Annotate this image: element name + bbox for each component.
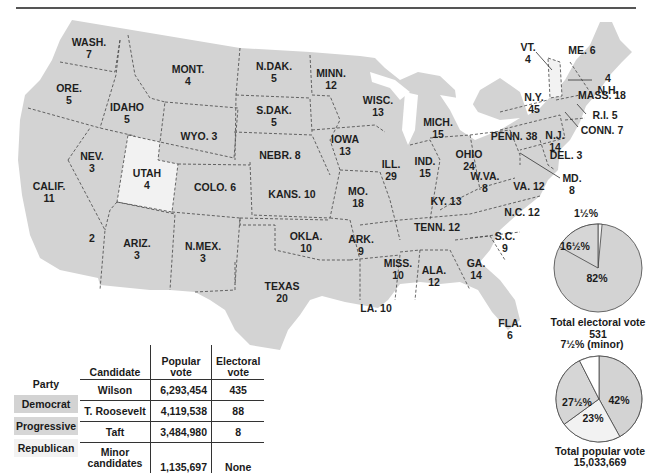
cell-electoral: 435	[212, 380, 265, 401]
popular-pie-total: 15,033,669	[574, 456, 627, 468]
legend-democrat: Democrat	[14, 395, 78, 413]
state-label-fla: FLA.6	[498, 317, 521, 341]
state-label-wisc: WISC.13	[363, 94, 393, 118]
cell-popular: 4,119,538	[151, 401, 212, 422]
state-label-minn: MINN.12	[316, 67, 346, 91]
cell-popular: 6,293,454	[151, 380, 212, 401]
state-label-ill: ILL.29	[382, 158, 401, 182]
electoral-vote-pie	[552, 222, 644, 314]
table-row: Wilson 6,293,454 435	[80, 380, 264, 401]
state-label-nc: N.C. 12	[504, 206, 540, 218]
state-label-ind: IND.15	[415, 155, 436, 179]
state-label-okla: OKLA.10	[290, 230, 323, 254]
cell-electoral: 88	[212, 401, 265, 422]
cell-popular: 3,484,980	[151, 422, 212, 443]
col-header-candidate: Candidate	[80, 345, 151, 380]
state-label-kans: KANS. 10	[268, 188, 315, 200]
popular-pie-label-democrat: 42%	[608, 394, 629, 406]
cell-electoral: None	[212, 443, 265, 473]
party-legend: Party Democrat Progressive Republican	[14, 378, 78, 461]
state-label-tenn: TENN. 12	[414, 221, 460, 233]
state-label-nev: NEV.3	[80, 150, 104, 174]
state-label-miss: MISS.10	[384, 257, 413, 281]
state-label-sc: S.C.9	[495, 230, 515, 254]
state-label-nebr: NEBR. 8	[259, 149, 300, 161]
state-label-ark: ARK.9	[348, 233, 374, 257]
legend-republican: Republican	[14, 439, 78, 457]
popular-pie-label-republican: 23%	[582, 412, 603, 424]
state-label-ny: N.Y.45	[524, 91, 543, 115]
cell-popular: 1,135,697	[151, 443, 212, 473]
state-label-ky: KY. 13	[431, 195, 462, 207]
state-label-ndak: N.DAK.5	[256, 60, 292, 84]
col-header-electoral: Electoral vote	[212, 345, 265, 380]
cell-candidate: Taft	[80, 422, 151, 443]
state-label-mont: MONT.4	[172, 63, 205, 87]
state-label-me: ME. 6	[568, 44, 595, 56]
state-label-vt: VT.4	[520, 41, 535, 65]
state-label-mo: MO.18	[348, 185, 368, 209]
state-label-del: DEL. 3	[550, 149, 583, 161]
state-label-utah: UTAH4	[133, 167, 161, 191]
state-label-ore: ORE.5	[56, 82, 82, 106]
state-label-nmex: N.MEX.3	[185, 240, 221, 264]
cell-candidate: Minor candidates	[80, 443, 151, 473]
state-label-colo: COLO. 6	[194, 181, 236, 193]
table-row: Taft 3,484,980 8	[80, 422, 264, 443]
state-label-idaho: IDAHO5	[110, 101, 144, 125]
electoral-pie-label-republican: 1½%	[574, 207, 598, 219]
table-row: T. Roosevelt 4,119,538 88	[80, 401, 264, 422]
legend-header: Party	[14, 378, 78, 390]
state-label-sdak: S.DAK.5	[256, 104, 292, 128]
cell-candidate: Wilson	[80, 380, 151, 401]
state-label-calif: CALIF.11	[33, 180, 66, 204]
popular-pie-label-progressive: 27½%	[562, 396, 592, 408]
state-label-la: LA. 10	[360, 302, 392, 314]
state-label-va: VA. 12	[513, 180, 544, 192]
state-label-wva: W.VA.8	[471, 170, 500, 194]
state-label-iowa: IOWA13	[331, 133, 359, 157]
state-label-conn: CONN. 7	[581, 124, 624, 136]
state-label-ohio: OHIO24	[456, 148, 483, 172]
electoral-pie-label-progressive: 16½%	[560, 240, 590, 252]
legend-progressive: Progressive	[14, 417, 78, 435]
popular-pie-label-minor: 7½% (minor)	[560, 338, 623, 350]
results-table: Candidate Popular vote Electoral vote Wi…	[80, 345, 264, 473]
state-label-texas: TEXAS20	[264, 280, 299, 304]
electoral-pie-label-democrat: 82%	[586, 272, 607, 284]
state-vermont	[548, 58, 562, 98]
state-label-ri: R.I. 5	[592, 109, 617, 121]
state-label-penn: PENN. 38	[491, 130, 538, 142]
state-label-mass: MASS. 18	[578, 89, 626, 101]
state-label-ala: ALA.12	[422, 264, 447, 288]
state-label-md: MD.8	[562, 172, 581, 196]
table-row: Minor candidates 1,135,697 None	[80, 443, 264, 473]
cell-electoral: 8	[212, 422, 265, 443]
state-label-wash: WASH.7	[72, 36, 106, 60]
state-label-ga: GA.14	[467, 257, 486, 281]
state-label-mich: MICH.15	[423, 116, 453, 140]
state-label-ariz: ARIZ.3	[123, 237, 150, 261]
electoral-pie-caption: Total electoral vote	[551, 316, 646, 328]
col-header-popular: Popular vote	[151, 345, 212, 380]
state-label-wyo: WYO. 3	[181, 130, 218, 142]
cell-candidate: T. Roosevelt	[80, 401, 151, 422]
state-label-calif-progressive: 2	[89, 232, 95, 244]
